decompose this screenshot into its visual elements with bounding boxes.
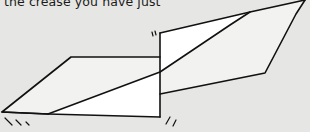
motion-marks-upper (152, 31, 156, 36)
folded-paper-diagram (0, 0, 310, 132)
motion-marks-lower-left (5, 118, 29, 125)
motion-marks-lower-center (166, 117, 176, 126)
